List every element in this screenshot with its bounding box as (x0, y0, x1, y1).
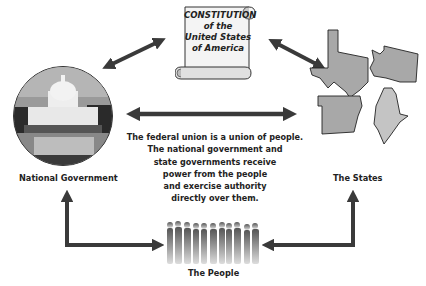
arkansas-shape-icon (318, 96, 362, 134)
constitution-line: United States (184, 32, 252, 43)
arrow-constitution-national (108, 41, 160, 66)
texas-shape-icon (310, 30, 368, 98)
constitution-line: of the (184, 21, 252, 32)
states-label: The States (333, 173, 383, 183)
description-line: The national government and (120, 143, 310, 155)
maine-shape-icon (374, 88, 408, 144)
national-government-label: National Government (19, 173, 118, 183)
crowd-silhouettes-icon (165, 220, 261, 266)
description-line: and exercise authority (120, 180, 310, 192)
people-label: The People (188, 268, 239, 278)
description-line: The federal union is a union of people. (120, 131, 310, 143)
constitution-title: CONSTITUTION of the United States of Ame… (184, 10, 252, 54)
constitution-line: CONSTITUTION (184, 10, 252, 21)
description-line: state governments receive (120, 156, 310, 168)
capitol-building-icon (13, 66, 113, 166)
constitution-line: of America (184, 43, 252, 54)
federal-union-description: The federal union is a union of people. … (120, 131, 310, 205)
description-line: directly over them. (120, 192, 310, 204)
washington-shape-icon (370, 46, 418, 82)
description-line: power from the people (120, 168, 310, 180)
states-map-icons (300, 20, 426, 160)
